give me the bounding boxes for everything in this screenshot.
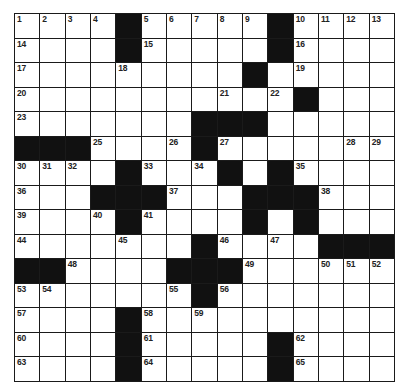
grid-cell[interactable]: 31 <box>40 161 64 185</box>
grid-cell[interactable]: 16 <box>294 39 318 63</box>
grid-cell[interactable]: 58 <box>142 308 166 332</box>
grid-cell[interactable]: 4 <box>91 14 115 38</box>
grid-cell[interactable] <box>66 88 90 112</box>
grid-cell[interactable]: 9 <box>243 14 267 38</box>
grid-cell[interactable] <box>370 88 394 112</box>
grid-cell[interactable]: 38 <box>319 186 343 210</box>
grid-cell[interactable] <box>319 308 343 332</box>
grid-cell[interactable]: 49 <box>243 259 267 283</box>
grid-cell[interactable] <box>167 357 191 381</box>
grid-cell[interactable] <box>116 137 140 161</box>
grid-cell[interactable] <box>319 112 343 136</box>
grid-cell[interactable]: 51 <box>344 259 368 283</box>
grid-cell[interactable] <box>192 186 216 210</box>
grid-cell[interactable] <box>192 63 216 87</box>
grid-cell[interactable] <box>167 210 191 234</box>
grid-cell[interactable] <box>91 235 115 259</box>
grid-cell[interactable] <box>192 333 216 357</box>
grid-cell[interactable] <box>370 161 394 185</box>
grid-cell[interactable]: 59 <box>192 308 216 332</box>
grid-cell[interactable]: 46 <box>218 235 242 259</box>
grid-cell[interactable]: 41 <box>142 210 166 234</box>
grid-cell[interactable] <box>370 186 394 210</box>
grid-cell[interactable] <box>218 39 242 63</box>
grid-cell[interactable]: 36 <box>15 186 39 210</box>
grid-cell[interactable] <box>40 210 64 234</box>
grid-cell[interactable]: 8 <box>218 14 242 38</box>
grid-cell[interactable] <box>294 284 318 308</box>
grid-cell[interactable] <box>40 308 64 332</box>
grid-cell[interactable] <box>116 112 140 136</box>
grid-cell[interactable]: 37 <box>167 186 191 210</box>
grid-cell[interactable] <box>91 357 115 381</box>
grid-cell[interactable] <box>66 63 90 87</box>
grid-cell[interactable] <box>294 235 318 259</box>
grid-cell[interactable] <box>218 186 242 210</box>
grid-cell[interactable] <box>40 357 64 381</box>
grid-cell[interactable]: 27 <box>218 137 242 161</box>
grid-cell[interactable] <box>370 284 394 308</box>
grid-cell[interactable] <box>91 308 115 332</box>
grid-cell[interactable] <box>66 39 90 63</box>
grid-cell[interactable] <box>66 284 90 308</box>
grid-cell[interactable]: 50 <box>319 259 343 283</box>
grid-cell[interactable] <box>40 63 64 87</box>
grid-cell[interactable] <box>40 112 64 136</box>
grid-cell[interactable] <box>142 137 166 161</box>
grid-cell[interactable] <box>167 308 191 332</box>
grid-cell[interactable] <box>319 210 343 234</box>
grid-cell[interactable] <box>344 210 368 234</box>
grid-cell[interactable] <box>268 112 292 136</box>
grid-cell[interactable] <box>167 88 191 112</box>
grid-cell[interactable]: 6 <box>167 14 191 38</box>
grid-cell[interactable] <box>192 357 216 381</box>
grid-cell[interactable] <box>243 308 267 332</box>
grid-cell[interactable] <box>344 112 368 136</box>
grid-cell[interactable] <box>116 88 140 112</box>
grid-cell[interactable]: 44 <box>15 235 39 259</box>
grid-cell[interactable] <box>142 112 166 136</box>
grid-cell[interactable] <box>294 308 318 332</box>
grid-cell[interactable]: 55 <box>167 284 191 308</box>
grid-cell[interactable]: 14 <box>15 39 39 63</box>
grid-cell[interactable] <box>344 186 368 210</box>
grid-cell[interactable] <box>319 333 343 357</box>
grid-cell[interactable] <box>66 333 90 357</box>
grid-cell[interactable]: 5 <box>142 14 166 38</box>
grid-cell[interactable] <box>142 235 166 259</box>
grid-cell[interactable] <box>167 39 191 63</box>
grid-cell[interactable] <box>40 235 64 259</box>
grid-cell[interactable] <box>192 88 216 112</box>
grid-cell[interactable] <box>319 357 343 381</box>
grid-cell[interactable]: 35 <box>294 161 318 185</box>
grid-cell[interactable] <box>344 308 368 332</box>
grid-cell[interactable] <box>243 161 267 185</box>
grid-cell[interactable] <box>268 259 292 283</box>
grid-cell[interactable] <box>319 39 343 63</box>
grid-cell[interactable]: 63 <box>15 357 39 381</box>
grid-cell[interactable] <box>243 235 267 259</box>
grid-cell[interactable] <box>40 88 64 112</box>
grid-cell[interactable] <box>294 259 318 283</box>
grid-cell[interactable] <box>40 39 64 63</box>
grid-cell[interactable]: 47 <box>268 235 292 259</box>
grid-cell[interactable] <box>370 39 394 63</box>
grid-cell[interactable]: 2 <box>40 14 64 38</box>
grid-cell[interactable]: 52 <box>370 259 394 283</box>
grid-cell[interactable] <box>319 137 343 161</box>
grid-cell[interactable] <box>344 63 368 87</box>
grid-cell[interactable] <box>91 259 115 283</box>
grid-cell[interactable] <box>218 210 242 234</box>
grid-cell[interactable]: 56 <box>218 284 242 308</box>
grid-cell[interactable] <box>370 333 394 357</box>
grid-cell[interactable] <box>243 39 267 63</box>
grid-cell[interactable]: 20 <box>15 88 39 112</box>
grid-cell[interactable]: 25 <box>91 137 115 161</box>
grid-cell[interactable] <box>142 88 166 112</box>
grid-cell[interactable] <box>268 284 292 308</box>
grid-cell[interactable]: 23 <box>15 112 39 136</box>
grid-cell[interactable]: 65 <box>294 357 318 381</box>
grid-cell[interactable] <box>91 161 115 185</box>
grid-cell[interactable] <box>243 284 267 308</box>
grid-cell[interactable] <box>116 259 140 283</box>
